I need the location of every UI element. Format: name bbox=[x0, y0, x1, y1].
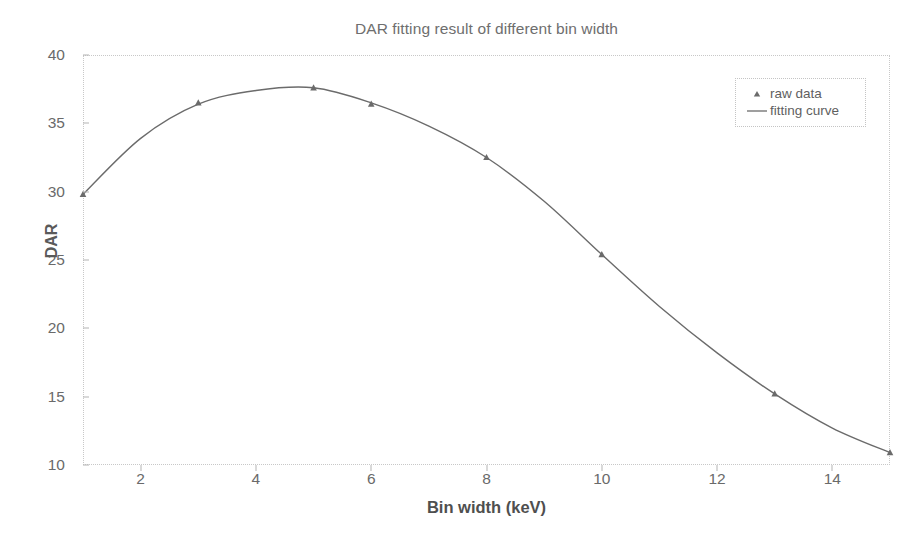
x-tick-mark bbox=[717, 465, 718, 471]
x-tick-mark bbox=[486, 465, 487, 471]
x-tick-label: 4 bbox=[252, 470, 261, 488]
y-axis-label: DAR bbox=[43, 181, 61, 301]
fitting-curve-path bbox=[83, 87, 890, 453]
triangle-marker-icon bbox=[744, 88, 770, 100]
x-tick-mark bbox=[255, 465, 256, 471]
x-tick-label: 8 bbox=[482, 470, 491, 488]
chart-legend: raw data fitting curve bbox=[735, 78, 866, 127]
chart-figure: DAR fitting result of different bin widt… bbox=[0, 0, 923, 544]
y-tick-label: 20 bbox=[48, 319, 65, 337]
x-tick-label: 2 bbox=[136, 470, 145, 488]
legend-label-fitting-curve: fitting curve bbox=[770, 103, 839, 118]
x-axis-label: Bin width (keV) bbox=[83, 498, 890, 517]
y-tick-mark bbox=[83, 260, 89, 261]
y-tick-label: 15 bbox=[48, 388, 65, 406]
x-axis-tick-labels: 2468101214 bbox=[0, 470, 923, 498]
y-tick-mark bbox=[83, 465, 89, 466]
x-tick-mark bbox=[140, 465, 141, 471]
x-tick-label: 14 bbox=[824, 470, 841, 488]
x-tick-mark bbox=[601, 465, 602, 471]
y-tick-label: 40 bbox=[48, 46, 65, 64]
x-tick-label: 10 bbox=[593, 470, 610, 488]
y-tick-mark bbox=[83, 123, 89, 124]
x-tick-label: 12 bbox=[708, 470, 725, 488]
legend-item-raw-data[interactable]: raw data bbox=[744, 85, 857, 102]
y-tick-label: 35 bbox=[48, 114, 65, 132]
legend-label-raw-data: raw data bbox=[770, 86, 822, 101]
y-tick-mark bbox=[83, 191, 89, 192]
x-tick-mark bbox=[832, 465, 833, 471]
x-tick-mark bbox=[371, 465, 372, 471]
legend-item-fitting-curve[interactable]: fitting curve bbox=[744, 102, 857, 119]
y-tick-mark bbox=[83, 328, 89, 329]
y-tick-mark bbox=[83, 396, 89, 397]
raw-data-markers bbox=[80, 84, 894, 455]
y-axis-tick-labels: 10152025303540 bbox=[0, 55, 75, 465]
y-tick-mark bbox=[83, 55, 89, 56]
line-marker-icon bbox=[744, 105, 770, 117]
x-tick-label: 6 bbox=[367, 470, 376, 488]
chart-title: DAR fitting result of different bin widt… bbox=[83, 20, 890, 38]
